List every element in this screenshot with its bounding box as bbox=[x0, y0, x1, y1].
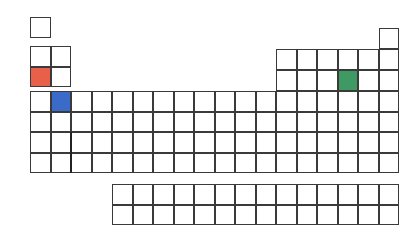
element-cell-g14-p4 bbox=[297, 91, 318, 112]
f-block-cell-r2-c7 bbox=[235, 205, 256, 226]
element-cell-g1-p4 bbox=[30, 91, 51, 112]
element-cell-g4-p5 bbox=[92, 112, 113, 133]
element-cell-g18-p1 bbox=[379, 28, 400, 49]
element-cell-g15-p2 bbox=[317, 49, 338, 70]
red-element bbox=[30, 67, 51, 88]
element-cell-g16-p7 bbox=[338, 153, 359, 174]
f-block-cell-r2-c10 bbox=[297, 205, 318, 226]
element-cell-g16-p4 bbox=[338, 91, 359, 112]
element-cell-g9-p4 bbox=[194, 91, 215, 112]
element-cell-g8-p7 bbox=[174, 153, 195, 174]
element-cell-g8-p6 bbox=[174, 132, 195, 153]
element-cell-g4-p7 bbox=[92, 153, 113, 174]
f-block-cell-r2-c9 bbox=[276, 205, 297, 226]
element-cell-g1-p6 bbox=[30, 132, 51, 153]
f-block-cell-r1-c14 bbox=[379, 184, 400, 205]
element-cell-g6-p6 bbox=[133, 132, 154, 153]
element-cell-g7-p7 bbox=[153, 153, 174, 174]
f-block-cell-r1-c4 bbox=[174, 184, 195, 205]
element-cell-g13-p6 bbox=[276, 132, 297, 153]
f-block-cell-r1-c12 bbox=[338, 184, 359, 205]
element-cell-g14-p5 bbox=[297, 112, 318, 133]
f-block-cell-r2-c11 bbox=[317, 205, 338, 226]
blue-element bbox=[51, 91, 72, 112]
element-cell-g18-p7 bbox=[379, 153, 400, 174]
element-cell-g2-p7 bbox=[51, 153, 72, 174]
element-cell-g1-p7 bbox=[30, 153, 51, 174]
element-cell-g9-p5 bbox=[194, 112, 215, 133]
element-cell-g13-p7 bbox=[276, 153, 297, 174]
element-cell-g12-p4 bbox=[256, 91, 277, 112]
f-block-cell-r2-c4 bbox=[174, 205, 195, 226]
element-cell-g8-p4 bbox=[174, 91, 195, 112]
f-block-cell-r1-c13 bbox=[358, 184, 379, 205]
element-cell-g10-p6 bbox=[215, 132, 236, 153]
element-cell-g15-p6 bbox=[317, 132, 338, 153]
element-cell-g7-p5 bbox=[153, 112, 174, 133]
element-cell-g15-p3 bbox=[317, 70, 338, 91]
element-cell-g11-p5 bbox=[235, 112, 256, 133]
element-cell-g9-p6 bbox=[194, 132, 215, 153]
element-cell-g3-p7 bbox=[71, 153, 92, 174]
element-cell-g18-p5 bbox=[379, 112, 400, 133]
element-cell-g17-p5 bbox=[358, 112, 379, 133]
f-block-cell-r1-c6 bbox=[215, 184, 236, 205]
f-block-cell-r1-c2 bbox=[133, 184, 154, 205]
f-block-cell-r2-c2 bbox=[133, 205, 154, 226]
element-cell-g14-p6 bbox=[297, 132, 318, 153]
element-cell-g16-p2 bbox=[338, 49, 359, 70]
element-cell-g11-p4 bbox=[235, 91, 256, 112]
f-block-divider bbox=[70, 132, 72, 173]
element-cell-g17-p3 bbox=[358, 70, 379, 91]
f-block-cell-r1-c11 bbox=[317, 184, 338, 205]
f-block-cell-r1-c9 bbox=[276, 184, 297, 205]
element-cell-g10-p5 bbox=[215, 112, 236, 133]
green-element bbox=[338, 70, 359, 91]
element-cell-g16-p6 bbox=[338, 132, 359, 153]
f-block-cell-r2-c5 bbox=[194, 205, 215, 226]
element-cell-g16-p5 bbox=[338, 112, 359, 133]
element-cell-g12-p5 bbox=[256, 112, 277, 133]
element-cell-g9-p7 bbox=[194, 153, 215, 174]
element-cell-g6-p5 bbox=[133, 112, 154, 133]
element-cell-g18-p4 bbox=[379, 91, 400, 112]
element-cell-g2-p6 bbox=[51, 132, 72, 153]
element-cell-g11-p7 bbox=[235, 153, 256, 174]
f-block-cell-r2-c6 bbox=[215, 205, 236, 226]
element-cell-g11-p6 bbox=[235, 132, 256, 153]
element-cell-g10-p4 bbox=[215, 91, 236, 112]
f-block-cell-r1-c1 bbox=[112, 184, 133, 205]
f-block-cell-r1-c3 bbox=[153, 184, 174, 205]
element-cell-g8-p5 bbox=[174, 112, 195, 133]
element-cell-g13-p2 bbox=[276, 49, 297, 70]
element-cell-g18-p2 bbox=[379, 49, 400, 70]
element-cell-g14-p3 bbox=[297, 70, 318, 91]
element-cell-g13-p3 bbox=[276, 70, 297, 91]
f-block-cell-r1-c5 bbox=[194, 184, 215, 205]
element-cell-g1-p1 bbox=[30, 17, 51, 38]
f-block-cell-r1-c10 bbox=[297, 184, 318, 205]
element-cell-g18-p6 bbox=[379, 132, 400, 153]
element-cell-g15-p5 bbox=[317, 112, 338, 133]
element-cell-g10-p7 bbox=[215, 153, 236, 174]
element-cell-g3-p6 bbox=[71, 132, 92, 153]
element-cell-g2-p2 bbox=[51, 46, 72, 67]
element-cell-g13-p5 bbox=[276, 112, 297, 133]
f-block-cell-r2-c14 bbox=[379, 205, 400, 226]
element-cell-g2-p3 bbox=[51, 67, 72, 88]
element-cell-g7-p6 bbox=[153, 132, 174, 153]
element-cell-g1-p2 bbox=[30, 46, 51, 67]
element-cell-g13-p4 bbox=[276, 91, 297, 112]
element-cell-g6-p7 bbox=[133, 153, 154, 174]
element-cell-g17-p6 bbox=[358, 132, 379, 153]
f-block-cell-r2-c1 bbox=[112, 205, 133, 226]
f-block-cell-r2-c8 bbox=[256, 205, 277, 226]
element-cell-g5-p4 bbox=[112, 91, 133, 112]
element-cell-g14-p7 bbox=[297, 153, 318, 174]
element-cell-g4-p4 bbox=[92, 91, 113, 112]
f-block-cell-r1-c8 bbox=[256, 184, 277, 205]
f-block-cell-r2-c13 bbox=[358, 205, 379, 226]
element-cell-g3-p5 bbox=[71, 112, 92, 133]
element-cell-g6-p4 bbox=[133, 91, 154, 112]
element-cell-g17-p7 bbox=[358, 153, 379, 174]
